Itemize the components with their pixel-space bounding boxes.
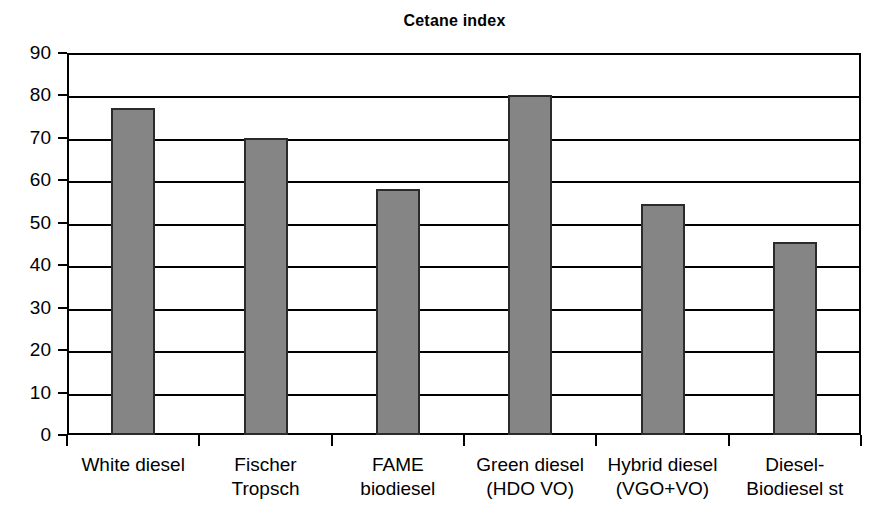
x-axis-tick-mark-0 (66, 435, 68, 446)
x-axis-tick-mark-3 (463, 435, 465, 446)
y-axis-tick-mark-50 (58, 222, 67, 224)
y-axis-tick-label-90: 90 (30, 42, 51, 64)
gridline-70 (69, 139, 859, 141)
y-axis-tick-label-70: 70 (30, 127, 51, 149)
y-axis-tick-mark-20 (58, 349, 67, 351)
y-axis-tick-mark-40 (58, 264, 67, 266)
gridlines (69, 55, 859, 433)
x-axis-category-label-4: Green diesel(HDO VO) (464, 453, 596, 502)
x-axis-tick-mark-2 (331, 435, 333, 446)
x-axis-category-label-6: Diesel-Biodiesel st (729, 453, 861, 502)
x-axis-tick-mark-1 (198, 435, 200, 446)
gridline-60 (69, 181, 859, 183)
x-axis-category-label-line2: (VGO+VO) (596, 477, 728, 501)
x-axis: White dieselFischerTropschFAMEbiodieselG… (67, 435, 861, 523)
x-axis-category-label-line1: Fischer (234, 454, 296, 475)
x-axis-category-label-line2: (HDO VO) (464, 477, 596, 501)
y-axis: 9080706050403020100 (0, 0, 67, 523)
cetane-index-bar-chart: Cetane index 9080706050403020100 White d… (0, 0, 889, 523)
y-axis-tick-mark-10 (58, 392, 67, 394)
y-axis-tick-mark-30 (58, 307, 67, 309)
y-axis-tick-mark-90 (58, 52, 67, 54)
x-axis-tick-mark-4 (595, 435, 597, 446)
x-axis-category-label-5: Hybrid diesel(VGO+VO) (596, 453, 728, 502)
gridline-10 (69, 394, 859, 396)
gridline-20 (69, 351, 859, 353)
y-axis-tick-mark-80 (58, 94, 67, 96)
x-axis-tick-mark-6 (860, 435, 862, 446)
x-axis-category-label-line1: FAME (372, 454, 424, 475)
y-axis-tick-mark-60 (58, 179, 67, 181)
x-axis-category-label-line2: Tropsch (199, 477, 331, 501)
x-axis-category-label-line1: White diesel (81, 454, 185, 475)
y-axis-tick-label-60: 60 (30, 169, 51, 191)
chart-title: Cetane index (0, 12, 889, 30)
x-axis-category-label-1: White diesel (67, 453, 199, 477)
y-axis-tick-label-40: 40 (30, 254, 51, 276)
x-axis-category-label-line1: Green diesel (476, 454, 584, 475)
x-axis-category-label-line1: Diesel- (765, 454, 824, 475)
gridline-30 (69, 309, 859, 311)
plot-area (67, 53, 861, 435)
x-axis-category-label-line1: Hybrid diesel (608, 454, 718, 475)
x-axis-category-label-3: FAMEbiodiesel (332, 453, 464, 502)
y-axis-tick-mark-70 (58, 137, 67, 139)
gridline-80 (69, 96, 859, 98)
x-axis-category-label-line2: Biodiesel st (729, 477, 861, 501)
y-axis-tick-label-20: 20 (30, 339, 51, 361)
y-axis-tick-label-30: 30 (30, 297, 51, 319)
gridline-50 (69, 224, 859, 226)
y-axis-tick-label-10: 10 (30, 382, 51, 404)
gridline-40 (69, 266, 859, 268)
x-axis-category-label-line2: biodiesel (332, 477, 464, 501)
y-axis-tick-label-50: 50 (30, 212, 51, 234)
y-axis-tick-label-80: 80 (30, 84, 51, 106)
x-axis-tick-mark-5 (728, 435, 730, 446)
y-axis-tick-label-0: 0 (40, 424, 51, 446)
x-axis-category-label-2: FischerTropsch (199, 453, 331, 502)
